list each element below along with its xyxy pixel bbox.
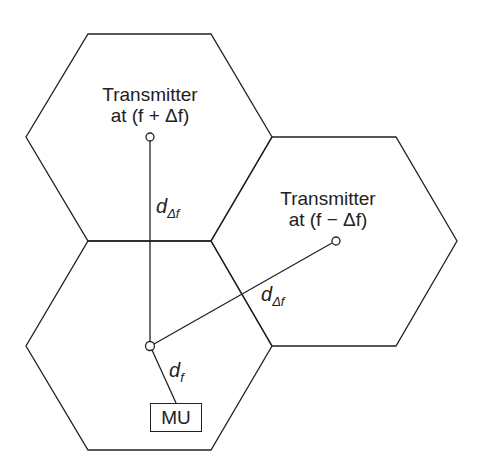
diagram-canvas: Transmitter at (f + Δf) Transmitter at (… xyxy=(0,0,488,462)
mobile-unit-label: MU xyxy=(161,407,191,428)
edge-label-d-f: df xyxy=(169,359,184,385)
transmitter-plus-line2: at (f + Δf) xyxy=(98,105,202,126)
transmitter-minus-node xyxy=(332,237,340,245)
transmitter-minus-line2: at (f − Δf) xyxy=(268,209,388,230)
transmitter-plus-node xyxy=(146,133,154,141)
receiver-node xyxy=(146,342,155,351)
diagram-graphics xyxy=(0,0,488,462)
edge-d-delta-f-diagonal xyxy=(154,243,332,344)
edge-label-d-delta-f-2: dΔf xyxy=(261,283,284,309)
transmitter-plus-line1: Transmitter xyxy=(98,84,202,105)
transmitter-minus-label: Transmitter at (f − Δf) xyxy=(268,188,388,230)
transmitter-plus-label: Transmitter at (f + Δf) xyxy=(98,84,202,126)
mobile-unit-box: MU xyxy=(150,403,202,432)
transmitter-minus-line1: Transmitter xyxy=(268,188,388,209)
edge-label-d-delta-f-1: dΔf xyxy=(156,195,179,221)
